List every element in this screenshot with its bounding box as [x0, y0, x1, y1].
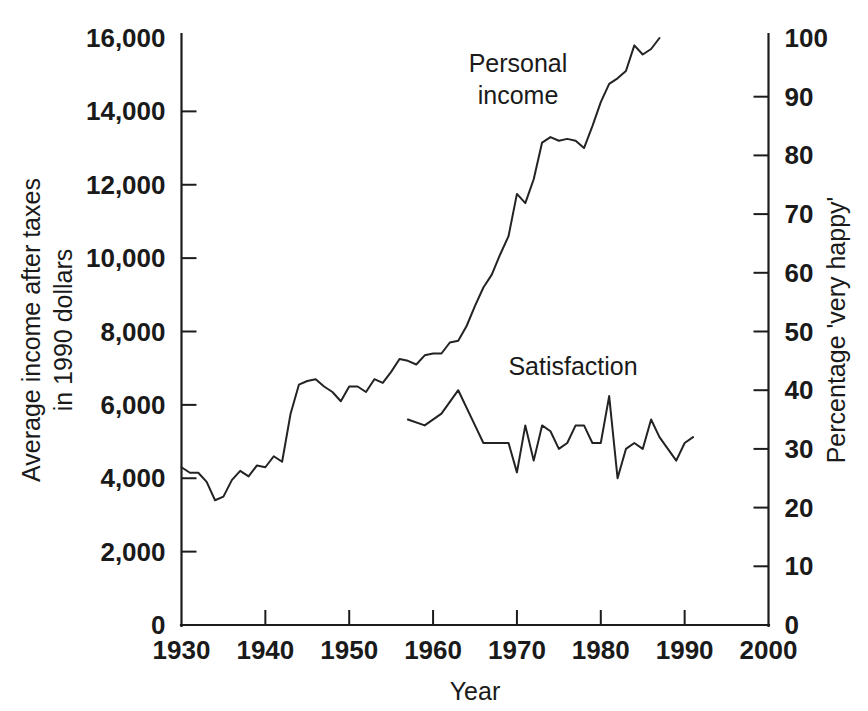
y-axis-right-tick-label: 30 [785, 434, 814, 464]
annotation-personal-income-line2: income [478, 81, 559, 109]
y-axis-left-tick-label: 12,000 [86, 170, 166, 200]
y-axis-right-tick-label: 100 [785, 23, 828, 53]
axes-group [181, 34, 769, 626]
y-axis-left-tick-label: 10,000 [86, 243, 166, 273]
y-axis-right-tick-label: 10 [785, 551, 814, 581]
x-axis-tick-label: 1990 [656, 635, 714, 665]
y-axis-right-title: Percentage 'very happy' [822, 197, 850, 464]
annotation-personal-income: Personal income [469, 49, 568, 109]
y-axis-right-tick-label: 80 [785, 140, 814, 170]
y-axis-left-tick-label: 16,000 [86, 23, 166, 53]
y-axis-right-tick-label: 40 [785, 375, 814, 405]
x-axis-title: Year [450, 677, 501, 705]
series-group [182, 38, 694, 500]
y-axis-right-tick-label: 50 [785, 317, 814, 347]
y-axis-left-tick-label: 6,000 [100, 390, 165, 420]
y-axis-left-title-line1: Average income after taxes [17, 178, 45, 482]
y-axis-left-tick-label: 8,000 [100, 317, 165, 347]
y-axis-right-tick-label: 60 [785, 258, 814, 288]
x-axis-tick-label: 1980 [572, 635, 630, 665]
x-axis-tick-label: 1950 [320, 635, 378, 665]
annotation-personal-income-line1: Personal [469, 49, 568, 77]
x-axis-tick-label: 1940 [236, 635, 294, 665]
y-axis-left-title: Average income after taxes in 1990 dolla… [17, 178, 77, 482]
series-line-satisfaction [408, 390, 693, 478]
y-axis-right-tick-label: 90 [785, 82, 814, 112]
chart-figure: 02,0004,0006,0008,00010,00012,00014,0001… [0, 0, 868, 711]
y-axis-right-ticks: 0102030405060708090100 [754, 23, 828, 640]
annotation-satisfaction: Satisfaction [508, 352, 637, 380]
series-line-personal-income [182, 38, 660, 500]
x-axis-tick-label: 1970 [488, 635, 546, 665]
y-axis-left-ticks: 02,0004,0006,0008,00010,00012,00014,0001… [86, 23, 197, 640]
y-axis-left-tick-label: 2,000 [100, 537, 165, 567]
y-axis-right-tick-label: 70 [785, 199, 814, 229]
y-axis-left-tick-label: 4,000 [100, 463, 165, 493]
x-axis-ticks: 19301940195019601970198019902000 [153, 610, 798, 665]
y-axis-right-tick-label: 20 [785, 493, 814, 523]
dual-axis-line-chart: 02,0004,0006,0008,00010,00012,00014,0001… [0, 0, 868, 711]
x-axis-tick-label: 1960 [404, 635, 462, 665]
y-axis-left-title-line2: in 1990 dollars [49, 249, 77, 412]
x-axis-tick-label: 1930 [153, 635, 211, 665]
x-axis-tick-label: 2000 [740, 635, 798, 665]
y-axis-left-tick-label: 14,000 [86, 96, 166, 126]
